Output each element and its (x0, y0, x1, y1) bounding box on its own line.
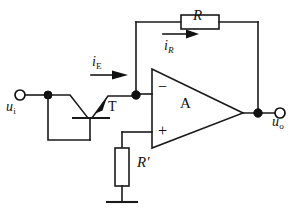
circuit-schematic-canvas (0, 0, 299, 216)
emitter-current-label: iE (92, 55, 102, 71)
inverting-input-sign: − (158, 79, 167, 95)
feedback-current-label: iR (164, 39, 174, 55)
balance-resistor-label: R′ (137, 155, 149, 170)
balance-resistor-Rprime-body (115, 148, 129, 186)
opamp-label: A (180, 96, 191, 111)
noninverting-input-sign: + (158, 123, 167, 139)
input-terminal-circle (15, 90, 25, 100)
output-terminal-label: uo (272, 115, 284, 131)
transistor-collector-lead (48, 95, 88, 118)
output-node-dot (254, 109, 262, 117)
transistor-label: T (108, 100, 117, 114)
inverting-input-node-dot (132, 91, 140, 99)
circuit-diagram: ui uo iE iR R R′ T A − + (0, 0, 299, 216)
emitter-current-arrow-head (112, 71, 128, 80)
input-terminal-label: ui (6, 100, 16, 116)
feedback-resistor-label: R (193, 8, 202, 23)
feedback-current-arrow-head (186, 30, 199, 39)
